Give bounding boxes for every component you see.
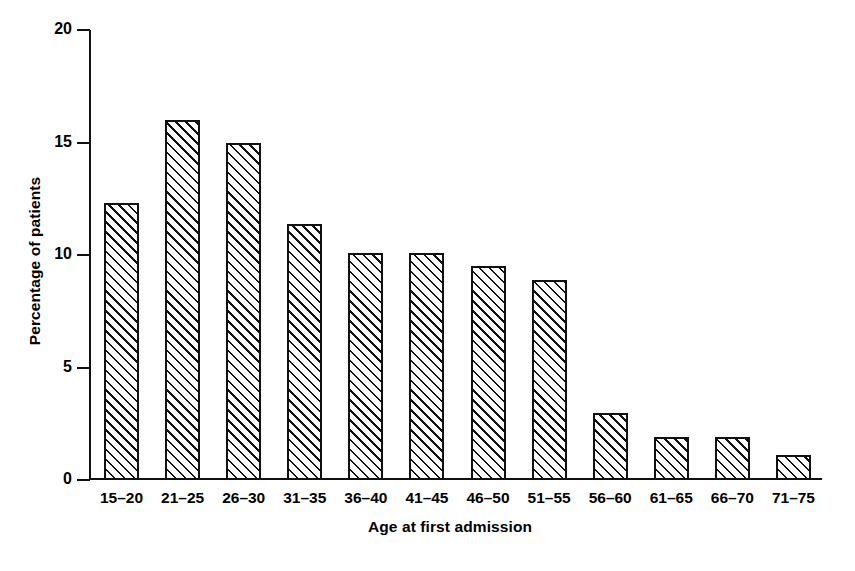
x-tick-label: 66–70 [701,488,763,508]
x-tick-label: 15–20 [91,488,153,508]
bar [226,143,261,481]
bar [165,120,200,480]
x-axis-title: Age at first admission [0,518,855,536]
bar [593,413,628,481]
y-tick-label: 10 [38,246,72,262]
bar [409,253,444,480]
x-tick-label: 21–25 [152,488,214,508]
x-tick-label: 46–50 [457,488,519,508]
bar [348,253,383,480]
y-tick-label: 15 [38,134,72,150]
y-tick-label: 20 [38,21,72,37]
x-tick-label: 71–75 [762,488,824,508]
bar [715,437,750,480]
x-tick-label: 26–30 [213,488,275,508]
bar-chart: Percentage of patients 05101520 15–2021–… [0,0,855,571]
bar [471,266,506,480]
bar [287,224,322,481]
y-tick-label: 5 [38,359,72,375]
plot-area [89,30,822,480]
x-axis-ticks: 15–2021–2526–3031–3536–4041–4546–5051–55… [89,488,822,512]
y-tick-label: 0 [38,471,72,487]
bar [654,437,689,480]
x-tick-label: 41–45 [396,488,458,508]
x-tick-label: 61–65 [640,488,702,508]
x-tick-label: 56–60 [579,488,641,508]
x-tick-label: 36–40 [335,488,397,508]
x-tick-label: 31–35 [274,488,336,508]
x-tick-label: 51–55 [518,488,580,508]
bar [776,455,811,480]
bar [104,203,139,480]
bar [532,280,567,480]
